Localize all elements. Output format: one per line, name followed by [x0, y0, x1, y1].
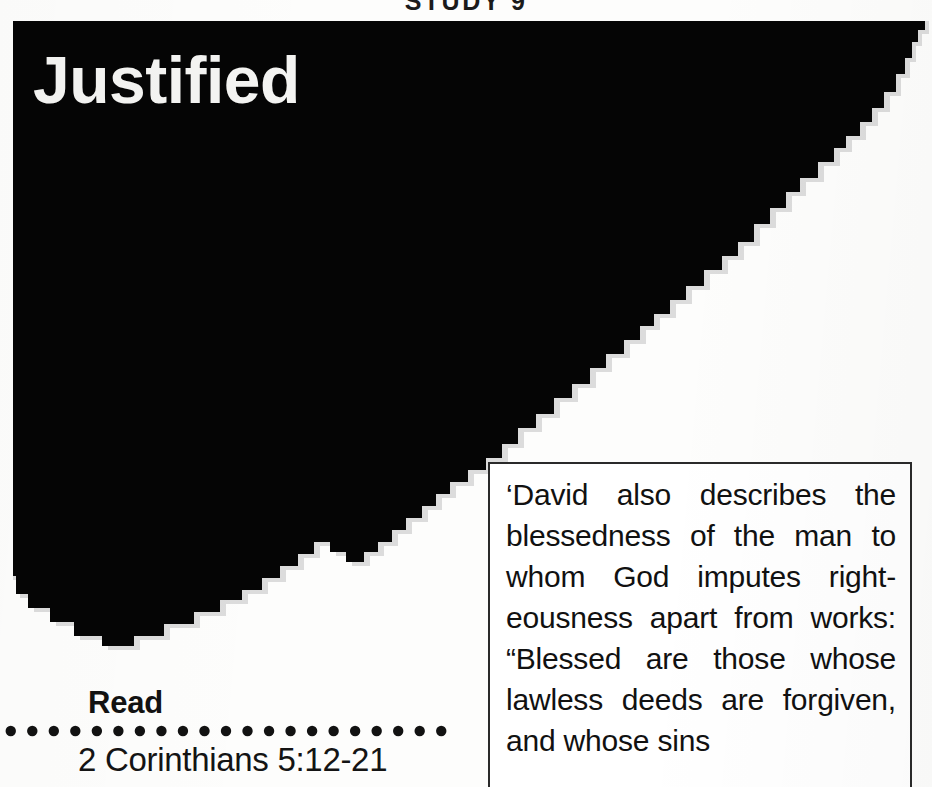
rule-dot — [371, 726, 381, 736]
rule-dot — [415, 726, 425, 736]
rule-dot — [307, 726, 317, 736]
rule-dot — [156, 726, 166, 736]
rule-dot — [49, 726, 59, 736]
rule-dot — [242, 726, 252, 736]
rule-dot — [221, 726, 231, 736]
rule-dot — [113, 726, 123, 736]
dotted-rule — [0, 724, 452, 738]
rule-dot — [393, 726, 403, 736]
rule-dot — [350, 726, 360, 736]
scanned-page: STUDY 9 Justified Read 2 Corinthians 5:1… — [0, 0, 932, 787]
read-label: Read — [88, 686, 452, 720]
read-reference: 2 Corinthians 5:12-21 — [78, 741, 452, 779]
quote-text: ‘David also describes the blessedness of… — [490, 464, 910, 761]
page-title: Justified — [33, 47, 300, 113]
rule-dot — [27, 726, 37, 736]
read-section: Read 2 Corinthians 5:12-21 — [0, 686, 452, 779]
rule-dot — [199, 726, 209, 736]
rule-dot — [436, 726, 446, 736]
quote-callout-box: ‘David also describes the blessedness of… — [488, 462, 912, 787]
rule-dot — [70, 726, 80, 736]
rule-dot — [135, 726, 145, 736]
rule-dot — [178, 726, 188, 736]
rule-dot — [6, 726, 16, 736]
rule-dot — [92, 726, 102, 736]
rule-dot — [264, 726, 274, 736]
rule-dot — [328, 726, 338, 736]
rule-dot — [285, 726, 295, 736]
